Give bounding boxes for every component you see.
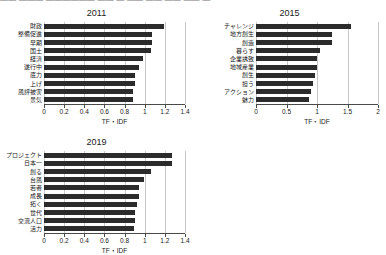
category-label: 交流人口 [0, 218, 42, 224]
category-label: 活力 [0, 226, 42, 232]
bar [256, 24, 351, 29]
bar [44, 226, 134, 231]
x-axis-line [44, 233, 185, 234]
bar [44, 32, 152, 37]
bar [44, 177, 144, 182]
bar [44, 153, 172, 158]
bar [44, 97, 133, 102]
bar [44, 194, 139, 199]
x-axis-tick-label: 2 [376, 108, 380, 115]
category-label: 経済 [0, 56, 42, 62]
bar [44, 65, 139, 70]
category-label: 上げ [0, 81, 42, 87]
chart-panel-2019: 2019 プロジェクト日本一創る台風若者成長拓く世代交流人口活力00.20.40… [0, 137, 193, 255]
bar [44, 89, 133, 94]
bar [256, 65, 317, 70]
chart-title-2019: 2019 [0, 137, 193, 148]
chart-panel-2015: 2015 チャレンジ地方創生創造暮らす企業誘致地域産業創生担うアクション魅力00… [193, 8, 386, 130]
clipped-top-text-content: —— ——— —————— —— — —— —— —— —— — [0, 0, 210, 4]
bar [44, 24, 164, 29]
x-axis-tick-label: 1.2 [160, 108, 169, 115]
gridline [185, 151, 186, 233]
bar [44, 81, 135, 86]
bar-fill [256, 40, 332, 45]
bar-fill [44, 226, 134, 231]
x-axis-tick-label: 1.5 [343, 108, 352, 115]
plot-inner-2015 [256, 22, 378, 104]
bar-fill [256, 81, 313, 86]
category-label: 台風 [0, 177, 42, 183]
x-axis-tick-label: 0.8 [120, 108, 129, 115]
category-label: アクション [193, 89, 254, 95]
bar-fill [44, 210, 135, 215]
category-label: チャレンジ [193, 23, 254, 29]
bar [44, 73, 135, 78]
bar [44, 40, 152, 45]
bar [44, 210, 135, 215]
bar-fill [44, 73, 135, 78]
bar-fill [256, 89, 311, 94]
x-axis-tick-label: 0 [254, 108, 258, 115]
bar-fill [256, 73, 315, 78]
category-label: 魅力 [193, 97, 254, 103]
bar-fill [256, 65, 317, 70]
bar-fill [44, 89, 133, 94]
gridline [185, 22, 186, 104]
x-axis-tick-label: 0.2 [60, 108, 69, 115]
category-label: 地域産業 [193, 64, 254, 70]
x-axis-tick-label: 0.6 [100, 108, 109, 115]
x-axis-tick-label: 1 [315, 108, 319, 115]
bar-fill [44, 185, 139, 190]
plot-area-2015 [256, 22, 378, 104]
bar-fill [44, 202, 137, 207]
gridline [378, 22, 379, 104]
bar [44, 56, 143, 61]
bar [44, 218, 135, 223]
plot-inner-2019 [44, 151, 185, 233]
x-axis-tick-label: 1.2 [160, 237, 169, 244]
bar-fill [256, 32, 332, 37]
bar-fill [44, 32, 152, 37]
gridline [348, 22, 349, 104]
x-axis-tick-label: 0.4 [80, 108, 89, 115]
bar-fill [44, 40, 152, 45]
bar [256, 48, 320, 53]
bar-fill [44, 161, 172, 166]
bar-fill [44, 48, 151, 53]
bar-fill [44, 24, 164, 29]
bar-fill [44, 194, 139, 199]
category-label: 世代 [0, 210, 42, 216]
category-label: 拓く [0, 201, 42, 207]
x-axis-label: TF・IDF [102, 118, 127, 126]
category-label: 景気 [0, 97, 42, 103]
bar-fill [44, 97, 133, 102]
x-axis-line [44, 104, 185, 105]
category-label: 早期 [0, 40, 42, 46]
x-axis-tick-label: 1 [143, 108, 147, 115]
category-label: 成長 [0, 193, 42, 199]
x-axis-tick-label: 0 [42, 108, 46, 115]
x-axis-tick-label: 1 [143, 237, 147, 244]
bar [256, 97, 309, 102]
bar [256, 40, 332, 45]
bar [44, 185, 139, 190]
x-axis-tick-label: 0.6 [100, 237, 109, 244]
x-axis-tick-label: 0 [42, 237, 46, 244]
category-label: 財政 [0, 23, 42, 29]
bar-fill [44, 218, 135, 223]
bar-fill [44, 65, 139, 70]
bar-fill [256, 24, 351, 29]
category-label: 日本一 [0, 160, 42, 166]
bar [256, 89, 311, 94]
bar [44, 169, 151, 174]
x-axis-tick-label: 0.8 [120, 237, 129, 244]
chart-panel-2011: 2011 財政整備促進早期国土経済遂行中底力上げ風評被害景気00.20.40.6… [0, 8, 193, 130]
bar [256, 81, 313, 86]
category-label: 暮らす [193, 48, 254, 54]
x-axis-tick-label: 0.4 [80, 237, 89, 244]
bar [256, 73, 315, 78]
x-axis-label: TF・IDF [102, 247, 127, 255]
category-label: プロジェクト [0, 152, 42, 158]
category-label: 創造 [193, 40, 254, 46]
x-axis-tick-label: 1.4 [180, 237, 189, 244]
